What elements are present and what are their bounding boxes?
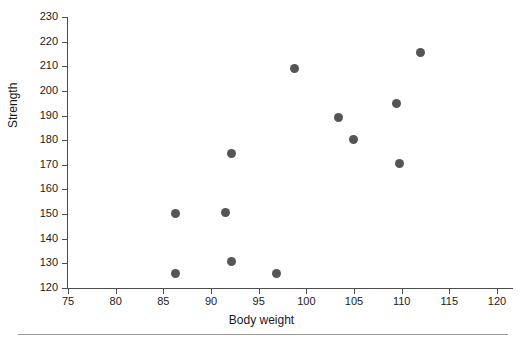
x-axis-tick [259,288,260,294]
x-axis-tick [211,288,212,294]
y-axis-tick-label: 180 [28,134,58,145]
x-axis-tick-label: 80 [101,296,131,307]
x-axis-tick-label: 95 [244,296,274,307]
y-axis-tick-label: 160 [28,183,58,194]
x-axis-tick [116,288,117,294]
y-axis-tick-label: 190 [28,110,58,121]
x-axis-tick [163,288,164,294]
y-axis-tick-label: 130 [28,257,58,268]
x-axis-tick-label: 105 [339,296,369,307]
y-axis-tick-label: 200 [28,85,58,96]
footer-divider [18,334,508,335]
y-axis-title: Strength [6,83,20,128]
x-axis-tick-label: 85 [148,296,178,307]
plot-area [68,17,497,288]
y-axis-tick-label: 120 [28,282,58,293]
y-axis-tick-label: 230 [28,11,58,22]
data-point [171,269,180,278]
y-axis-tick-label: 170 [28,159,58,170]
y-axis-tick-label: 140 [28,233,58,244]
data-point [349,135,358,144]
x-axis-tick-label: 90 [196,296,226,307]
x-axis-tick-label: 120 [482,296,512,307]
x-axis-tick [306,288,307,294]
y-axis-tick-label: 150 [28,208,58,219]
x-axis-tick [354,288,355,294]
y-axis-tick-label: 220 [28,36,58,47]
data-point [221,208,230,217]
data-point [272,269,281,278]
x-axis-tick-label: 115 [434,296,464,307]
x-axis-tick-label: 110 [387,296,417,307]
x-axis-tick-label: 75 [53,296,83,307]
x-axis-line [68,288,513,289]
scatter-chart: 120130140150160170180190200210220230 758… [0,0,523,343]
x-axis-tick-label: 100 [291,296,321,307]
y-axis-tick-label: 210 [28,60,58,71]
x-axis-tick [449,288,450,294]
x-axis-title: Body weight [0,313,523,327]
x-axis-tick [68,288,69,294]
x-axis-tick [497,288,498,294]
x-axis-tick [402,288,403,294]
